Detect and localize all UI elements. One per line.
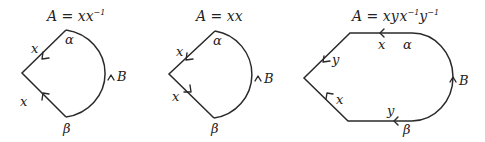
edge-label-x: x: [378, 37, 386, 52]
vertex-label-alpha: α: [65, 32, 74, 47]
edge-label-y: y: [331, 52, 340, 67]
edge-label-x: x: [31, 41, 39, 56]
diagram-1-title: A = xx−1: [45, 8, 105, 24]
edge-label-B: B: [263, 71, 274, 86]
diagram-3-arc: [412, 33, 453, 121]
edge-label-x: x: [172, 89, 180, 104]
diagram-3: A = xyx−1y−1 x y x y B α β: [304, 8, 469, 137]
edge-label-y: y: [386, 103, 395, 118]
vertex-label-alpha: α: [403, 37, 412, 52]
arrow-icon: [255, 76, 261, 81]
diagram-1: A = xx−1 x x B α β: [20, 8, 127, 136]
vertex-label-beta: β: [210, 121, 219, 136]
edge-label-x: x: [336, 92, 344, 107]
edge-label-B: B: [116, 69, 127, 84]
diagram-canvas: A = xx−1 x x B α β A = xx x x B α β A = …: [0, 0, 485, 142]
diagram-2: A = xx x x B α β: [169, 8, 274, 136]
arrow-icon: [42, 52, 49, 59]
arrow-icon: [184, 85, 191, 92]
diagram-2-title: A = xx: [194, 8, 243, 24]
diagram-3-title: A = xyx−1y−1: [350, 8, 439, 24]
diagram-1-left-edges: [22, 30, 66, 117]
edge-label-B: B: [458, 73, 469, 88]
vertex-label-beta: β: [62, 121, 71, 136]
vertex-label-beta: β: [402, 122, 411, 137]
edge-label-x: x: [20, 94, 28, 109]
arrow-icon: [326, 93, 333, 99]
diagram-3-polyline: [304, 33, 412, 121]
vertex-label-alpha: α: [213, 33, 222, 48]
arrow-icon: [108, 75, 114, 80]
edge-label-x: x: [176, 44, 184, 59]
